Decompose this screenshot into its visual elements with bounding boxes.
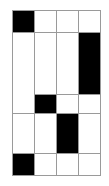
grid-cell-r3c2-filled (34, 94, 57, 114)
grid-cell-r5c3-empty (56, 153, 79, 176)
grid-cell-r4c3-filled (56, 113, 79, 154)
grid-cell-r3c4-empty (78, 94, 101, 114)
grid-cell-r1c3-empty (56, 10, 79, 33)
grid-cell-r2c1-empty (12, 32, 35, 114)
grid-cell-r2c3-empty (56, 32, 79, 95)
grid-cell-r4c2-empty (34, 113, 57, 154)
grid-cell-r1c1-filled (12, 10, 35, 33)
grid-cell-r2c2-empty (34, 32, 57, 95)
grid-cell-r5c1-filled (12, 153, 35, 176)
grid-cell-r2c4-filled (78, 32, 101, 95)
grid-diagram (0, 0, 109, 186)
grid-cell-r5c2-empty (34, 153, 57, 176)
grid-cell-r4c4-empty (78, 113, 101, 154)
grid-cell-r3c3-empty (56, 94, 79, 114)
grid-cell-r1c2-empty (34, 10, 57, 33)
grid-cell-r4c1-empty (12, 113, 35, 154)
grid-cell-r1c4-empty (78, 10, 101, 33)
grid-cell-r5c4-empty (78, 153, 101, 176)
